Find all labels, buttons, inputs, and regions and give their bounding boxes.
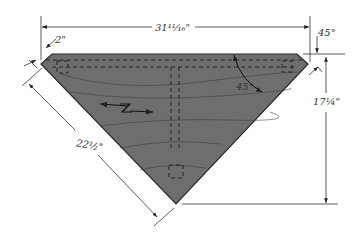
corner-angle-dimension <box>303 36 345 75</box>
shelf-diagram: 31¹¹⁄₁₆" 2" 45° 45° 17¼" 22½" <box>0 0 356 239</box>
wood-board <box>41 54 308 204</box>
corner-offset-label: 2" <box>54 34 66 45</box>
height-label: 17¼" <box>313 96 340 107</box>
edge-angle-label: 45° <box>235 81 254 92</box>
left-edge-label: 22½" <box>74 137 104 153</box>
corner-angle-label: 45° <box>317 27 336 38</box>
top-width-label: 31¹¹⁄₁₆" <box>155 22 190 33</box>
